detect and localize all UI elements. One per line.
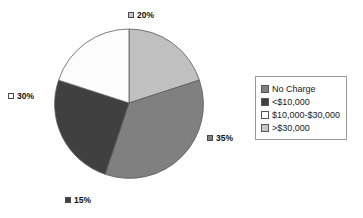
data-label-30: 30%: [8, 91, 34, 101]
legend-swatch-lt-10000-icon: [261, 98, 269, 106]
legend-swatch-10000-30000-icon: [261, 111, 269, 119]
legend-item-label: >$30,000: [272, 123, 310, 133]
chart-legend: No Charge <$10,000 $10,000-$30,000 >$30,…: [255, 76, 347, 140]
data-label-swatch-10000-30000-icon: [8, 93, 14, 99]
data-label-text: 30%: [17, 91, 34, 101]
legend-item-label: $10,000-$30,000: [272, 110, 340, 120]
legend-item-gt-30000[interactable]: >$30,000: [261, 121, 340, 134]
legend-item-label: No Charge: [272, 84, 316, 94]
legend-item-10000-30000[interactable]: $10,000-$30,000: [261, 108, 340, 121]
data-label-swatch-no-charge-icon: [207, 135, 213, 141]
pie-graphic: [53, 27, 205, 179]
data-label-swatch-lt-10000-icon: [65, 197, 71, 203]
data-label-15: 15%: [65, 195, 91, 205]
pie-svg: [53, 27, 205, 179]
legend-swatch-no-charge-icon: [261, 85, 269, 93]
legend-item-no-charge[interactable]: No Charge: [261, 82, 340, 95]
data-label-swatch-gt-30000-icon: [128, 12, 134, 18]
data-label-20: 20%: [128, 10, 154, 20]
data-label-35: 35%: [207, 133, 233, 143]
data-label-text: 20%: [137, 10, 154, 20]
data-label-text: 15%: [74, 195, 91, 205]
pie-chart: 20% 30% 35% 15% No Charge <$10,000 $10,0…: [0, 0, 363, 218]
legend-item-label: <$10,000: [272, 97, 310, 107]
legend-item-lt-10000[interactable]: <$10,000: [261, 95, 340, 108]
data-label-text: 35%: [216, 133, 233, 143]
legend-swatch-gt-30000-icon: [261, 124, 269, 132]
